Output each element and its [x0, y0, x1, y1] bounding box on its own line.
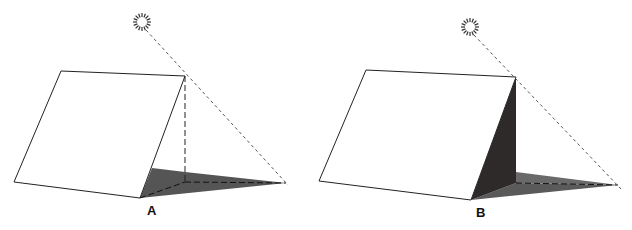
panel-label-a: A — [147, 203, 156, 218]
cast-shadow-a — [140, 168, 286, 198]
sun-icon — [133, 13, 151, 31]
panel-a — [14, 13, 288, 198]
cast-shadow-b-upper — [516, 172, 618, 185]
panel-label-b: B — [476, 205, 485, 220]
sun-icon — [461, 18, 479, 36]
panel-b — [319, 18, 622, 200]
diagram-canvas — [0, 0, 632, 230]
